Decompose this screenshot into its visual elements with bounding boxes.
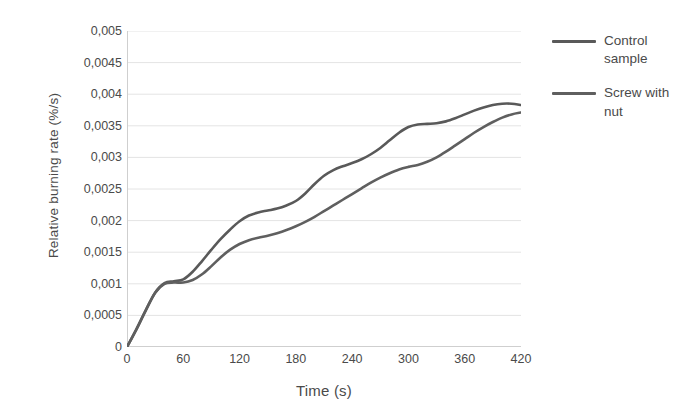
y-axis-tick-label: 0,004 xyxy=(60,87,122,101)
plot-svg xyxy=(127,31,521,347)
y-axis-tick-label: 0,0035 xyxy=(60,119,122,133)
burning-rate-line-chart: Relative burning rate (%/s) 00,00050,001… xyxy=(0,0,680,418)
y-axis-tick-label: 0,0005 xyxy=(60,308,122,322)
x-axis-tick-label: 0 xyxy=(97,352,157,366)
legend-item[interactable]: Control sample xyxy=(552,32,680,68)
x-axis-tick-label: 60 xyxy=(153,352,213,366)
plot-area xyxy=(127,31,521,347)
y-axis-tick-label: 0,002 xyxy=(60,214,122,228)
legend-swatch-icon xyxy=(552,92,596,95)
x-axis-tick-label: 240 xyxy=(322,352,382,366)
x-axis-tick-label: 120 xyxy=(210,352,270,366)
x-axis-title: Time (s) xyxy=(127,382,521,399)
y-axis-tick-label: 0,0025 xyxy=(60,182,122,196)
series-line-2 xyxy=(127,113,521,347)
chart-legend: Control sampleScrew with nut xyxy=(552,32,680,137)
y-axis-tick-label: 0,0045 xyxy=(60,56,122,70)
x-axis-tick-label: 420 xyxy=(491,352,551,366)
legend-item-label: Screw with nut xyxy=(604,84,678,120)
y-axis-tick-label: 0,003 xyxy=(60,150,122,164)
y-axis-tick-label: 0,005 xyxy=(60,24,122,38)
legend-swatch-icon xyxy=(552,40,596,43)
x-axis-tick-label: 300 xyxy=(378,352,438,366)
legend-item-label: Control sample xyxy=(604,32,678,68)
x-axis-tick-label: 180 xyxy=(266,352,326,366)
y-axis-tick-label: 0,001 xyxy=(60,277,122,291)
legend-item[interactable]: Screw with nut xyxy=(552,84,680,120)
x-axis-tick-label: 360 xyxy=(435,352,495,366)
y-axis-tick-label: 0,0015 xyxy=(60,245,122,259)
